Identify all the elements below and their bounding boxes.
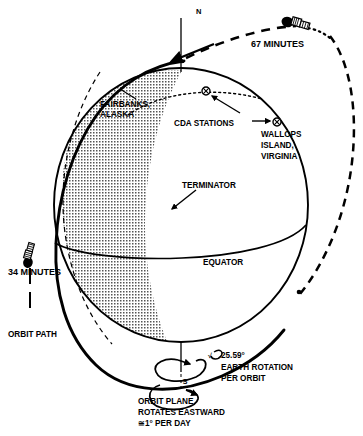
leader-terminator <box>172 190 196 209</box>
orbit-diagram-figure: √ N S 67 MINUTES 34 MINUTES FAIRBANKS, A… <box>0 0 363 436</box>
satellite-icon-left <box>21 242 38 269</box>
label-orbit-plane-line3: ≅1° PER DAY <box>138 419 191 428</box>
label-wallops-line2: ISLAND, <box>261 141 294 150</box>
diagram-canvas: √ N S 67 MINUTES 34 MINUTES FAIRBANKS, A… <box>0 0 363 436</box>
label-67-minutes: 67 MINUTES <box>251 39 304 49</box>
orbit-path-dotted-tail <box>308 28 332 40</box>
label-earth-rotation: EARTH ROTATION <box>221 363 293 372</box>
globe <box>54 18 308 390</box>
orbit-node-marker <box>297 290 302 295</box>
label-34-minutes: 34 MINUTES <box>8 267 61 277</box>
station-marker-wallops <box>273 118 281 126</box>
label-wallops-line3: VIRGINIA <box>261 152 297 161</box>
satellite-icon-top <box>280 14 310 33</box>
label-per-orbit: PER ORBIT <box>221 374 266 383</box>
label-orbit-path: ORBIT PATH <box>8 330 57 339</box>
label-fairbanks-line1: FAIRBANKS, <box>100 100 150 109</box>
label-orbit-plane-line2: ROTATES EASTWARD <box>138 408 225 417</box>
label-cda-stations: CDA STATIONS <box>174 119 234 128</box>
orbit-direction-arrow-top <box>172 44 214 61</box>
label-equator: EQUATOR <box>203 258 243 267</box>
label-terminator: TERMINATOR <box>182 181 236 190</box>
leader-cda-to-fairbanks <box>212 96 240 113</box>
label-north-pole: N <box>196 7 201 16</box>
label-rotation-angle: 25.59° <box>221 351 245 360</box>
orbit-path-far-right <box>300 36 354 294</box>
label-orbit-plane-line1: ORBIT PLANE <box>138 397 194 406</box>
label-fairbanks-line2: ALASKA <box>100 110 134 119</box>
label-south-pole: S <box>183 378 188 385</box>
earth-rotation-arrow: √ <box>155 352 212 381</box>
station-marker-fairbanks <box>202 87 210 95</box>
label-wallops-line1: WALLOPS <box>261 130 302 139</box>
